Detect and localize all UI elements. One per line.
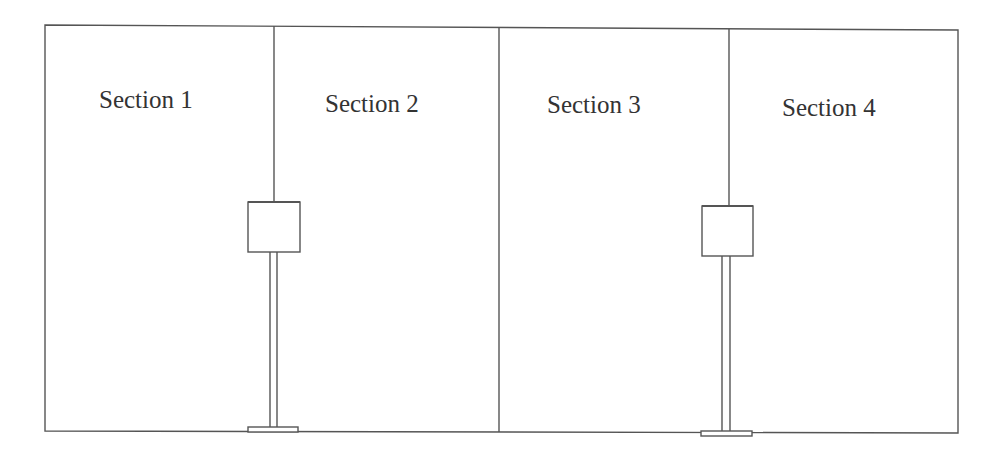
section-diagram (0, 0, 998, 456)
base-plate-right (701, 431, 752, 436)
section-1-label: Section 1 (99, 87, 193, 112)
box-right (702, 206, 753, 256)
section-4-label: Section 4 (782, 95, 876, 120)
section-2-label: Section 2 (325, 91, 419, 116)
section-3-label: Section 3 (547, 92, 641, 117)
base-plate-left (248, 427, 298, 432)
box-left (248, 202, 300, 252)
